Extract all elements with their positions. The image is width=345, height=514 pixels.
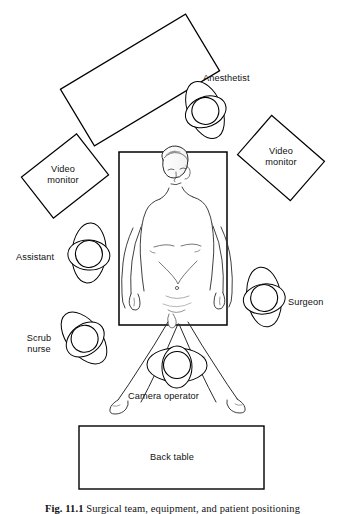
label-assistant: Assistant xyxy=(16,252,54,263)
label-scrub-nurse: Scrub nurse xyxy=(16,333,62,354)
label-video-monitor-left: Video monitor xyxy=(28,164,98,185)
label-camera-operator: Camera operator xyxy=(128,391,199,402)
figure-caption: Fig. 11.1 Surgical team, equipment, and … xyxy=(0,503,345,514)
label-video-monitor-right: Video monitor xyxy=(246,146,316,167)
figure-caption-label: Fig. 11.1 xyxy=(45,503,84,514)
label-anesthetist: Anesthetist xyxy=(203,73,250,84)
label-back-table: Back table xyxy=(122,452,222,463)
label-surgeon: Surgeon xyxy=(288,297,323,308)
figure-caption-text: Surgical team, equipment, and patient po… xyxy=(86,503,300,514)
